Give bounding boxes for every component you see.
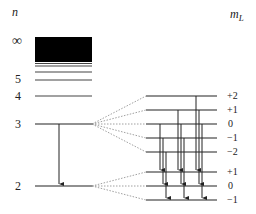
zeeman-transitions [160, 96, 202, 198]
split-connectors [92, 96, 146, 200]
continuum-block [35, 37, 92, 62]
main-levels [35, 124, 92, 186]
energy-level-diagram: n mL ∞ 5 4 3 2 +2 +1 0 −1 −2 +1 0 −1 [0, 0, 256, 214]
high-n-levels [35, 64, 92, 97]
diagram-graphics [0, 0, 256, 214]
